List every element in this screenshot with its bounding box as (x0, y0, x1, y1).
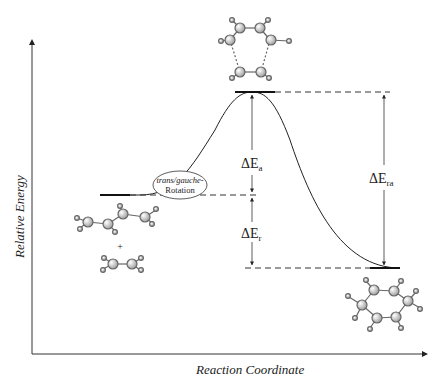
delta-er-label: ΔEr (241, 226, 262, 243)
delta-ea-label: ΔEa (241, 156, 263, 173)
svg-text:trans/gauche-: trans/gauche- (156, 175, 203, 185)
svg-text:Rotation: Rotation (165, 185, 195, 195)
plus-sign: + (117, 241, 123, 252)
energy-diagram: Relative Energy Reaction Coordinate ΔEa … (0, 0, 443, 382)
delta-era-label: ΔEra (369, 171, 394, 188)
butadiene-molecule (75, 204, 159, 235)
rotation-annotation: trans/gauche- Rotation (153, 171, 207, 199)
cyclohexene-molecule (346, 278, 423, 332)
energy-curve (100, 92, 400, 268)
x-axis-label: Reaction Coordinate (195, 362, 304, 377)
ethylene-molecule (101, 256, 144, 273)
y-axis-label: Relative Energy (12, 175, 27, 259)
transition-state-molecule (219, 18, 292, 81)
